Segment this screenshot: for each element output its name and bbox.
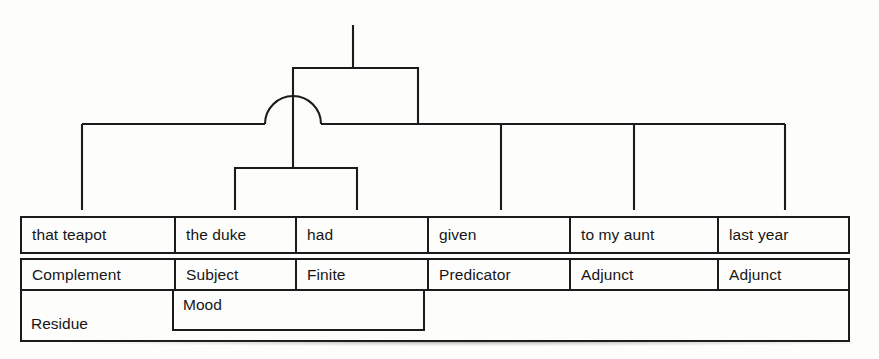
word-label-5: last year — [729, 226, 788, 244]
inner-bracket-line — [235, 168, 357, 210]
word-cell-3: given — [427, 218, 569, 252]
function-cell-2: Finite — [295, 260, 427, 289]
structure-row — [20, 291, 850, 342]
function-cell-1: Subject — [174, 260, 295, 289]
function-cell-0: Complement — [22, 260, 174, 289]
function-label-5: Adjunct — [729, 266, 781, 284]
word-cell-0: that teapot — [22, 218, 174, 252]
word-cell-5: last year — [717, 218, 852, 252]
word-label-3: given — [439, 226, 477, 244]
function-cell-4: Adjunct — [569, 260, 717, 289]
function-cell-3: Predicator — [427, 260, 569, 289]
word-label-4: to my aunt — [581, 226, 654, 244]
function-label-4: Adjunct — [581, 266, 633, 284]
word-cell-1: the duke — [174, 218, 295, 252]
mood-label: Mood — [183, 296, 222, 314]
words-row: that teapot the duke had given to my aun… — [20, 216, 850, 254]
word-cell-4: to my aunt — [569, 218, 717, 252]
residue-label: Residue — [31, 315, 88, 333]
word-label-0: that teapot — [32, 226, 106, 244]
word-cell-2: had — [295, 218, 427, 252]
functions-row: Complement Subject Finite Predicator Adj… — [20, 258, 850, 291]
function-cell-5: Adjunct — [717, 260, 852, 289]
function-label-1: Subject — [186, 266, 238, 284]
outer-bracket-line — [293, 68, 418, 124]
function-label-3: Predicator — [439, 266, 511, 284]
function-label-0: Complement — [32, 266, 121, 284]
function-label-2: Finite — [307, 266, 346, 284]
word-label-1: the duke — [186, 226, 246, 244]
word-label-2: had — [307, 226, 333, 244]
diagram-page: that teapot the duke had given to my aun… — [0, 0, 879, 359]
